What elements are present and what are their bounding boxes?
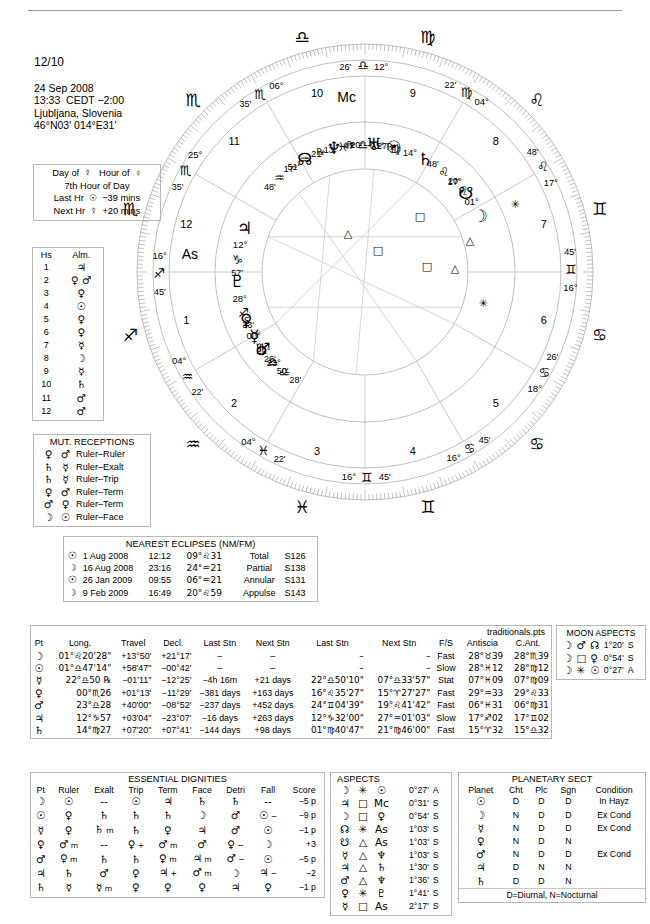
chart-wheel-svg[interactable]: 116°♐45'As204°♒22'304°♓22'416°♊45'516°♋4… xyxy=(120,22,650,532)
chart-wheel[interactable]: 116°♐45'As204°♒22'304°♓22'416°♊45'516°♋4… xyxy=(120,22,650,532)
planetary-sect-table: PlanetChtPlcSgnCondition ☉DDDIn Hayz☽NDD… xyxy=(459,785,645,888)
degree-tick xyxy=(287,477,290,486)
degree-tick xyxy=(325,487,327,497)
cusp-minute-5: 45' xyxy=(479,435,491,445)
degree-tick xyxy=(138,295,144,296)
cusp-degree-5: 16° xyxy=(446,452,461,463)
aspect-from: ☽ xyxy=(336,784,354,797)
point-contra-antiscia: 17°♊02 xyxy=(505,712,551,724)
points-column-header: Last Stn xyxy=(299,638,366,650)
degree-tick xyxy=(572,352,578,354)
almuten-row: 3♀ xyxy=(33,287,103,300)
degree-tick xyxy=(566,176,571,179)
almuten-symbol: ♄ xyxy=(60,378,103,391)
almuten-row: 7☿ xyxy=(33,339,103,352)
points-row: ♂23°♎28+40'00"−08°52'−237 days+452 days2… xyxy=(31,699,551,711)
aspect-chord-6 xyxy=(268,237,454,324)
point-declination: −11°29' xyxy=(153,687,193,699)
degree-tick xyxy=(162,168,167,171)
aspect-marker-7: △ xyxy=(344,227,353,240)
degree-tick xyxy=(580,326,586,327)
eclipse-date: 26 Jan 2009 xyxy=(81,574,147,586)
dignity-score: +3 xyxy=(284,838,324,852)
degree-tick xyxy=(392,46,393,52)
degree-tick xyxy=(505,95,509,100)
point-declination: −00°42' xyxy=(153,662,193,674)
point-next-stn-pos: – xyxy=(366,650,433,662)
degree-tick xyxy=(302,485,304,491)
mutual-reception-row: ☽☉Ruler–Face xyxy=(40,511,127,524)
cusp-minute-7: 45' xyxy=(564,247,576,257)
eclipse-saros: S138 xyxy=(282,562,317,574)
reception-planet-b: ☿ xyxy=(57,461,74,474)
degree-tick xyxy=(542,135,547,139)
degree-tick xyxy=(176,145,181,148)
almuten-symbol: ♂ xyxy=(60,392,103,405)
house-number-9: 9 xyxy=(410,87,416,99)
sect-sign: N xyxy=(554,875,584,888)
reception-planet-b: ♂ xyxy=(57,486,74,499)
degree-tick xyxy=(577,205,583,207)
zodiac-glyph-7: ♊ xyxy=(592,199,607,219)
point-symbol: ♃ xyxy=(31,712,47,724)
point-last-stn-time: −4h 16m xyxy=(193,674,246,686)
degree-tick xyxy=(492,85,495,90)
degree-tick xyxy=(298,484,300,490)
aspect-to: ♆ xyxy=(372,849,391,862)
almuten-symbol: ♀ xyxy=(60,326,103,339)
degree-tick xyxy=(565,172,570,175)
eclipse-row: ☽9 Feb 200916:4920°♌59AppulseS143 xyxy=(64,587,317,599)
mutual-receptions-table: ♀♂Ruler–Ruler♄☿Ruler–Exalt♄☿Ruler–Trip♀♂… xyxy=(40,448,127,524)
essential-dignities-title: ESSENTIAL DIGNITIES xyxy=(31,774,324,785)
point-next-stn-time: – xyxy=(246,662,299,674)
sect-sign: N xyxy=(554,835,584,848)
aspect-sa: S xyxy=(431,797,441,810)
sect-chart: D xyxy=(503,861,530,874)
degree-tick xyxy=(572,190,578,192)
sect-column-header: Cht xyxy=(503,785,530,795)
dignity-face: ♂ xyxy=(185,838,219,852)
dignity-term: ♀ xyxy=(151,881,185,895)
aspect-orb: 1°03' xyxy=(391,823,431,836)
degree-tick xyxy=(190,412,198,418)
aspect-lines xyxy=(268,169,462,374)
dignity-face: ♃ m xyxy=(185,852,219,866)
point-next-stn-time: +98 days xyxy=(246,724,299,736)
aspect-orb: 1°30' xyxy=(391,861,431,874)
points-row: ♃12°♑57+03'04"−23°07'−16 days+263 days12… xyxy=(31,712,551,724)
degree-tick xyxy=(570,347,579,350)
aspect-sa: S xyxy=(431,823,441,836)
point-antiscia: 28°♉39 xyxy=(460,650,506,662)
degree-tick xyxy=(225,447,229,452)
point-contra-antiscia: 07°♍09 xyxy=(505,674,551,686)
planet-minute-neptune: 51' xyxy=(288,162,300,172)
planetary-sect-title: PLANETARY SECT xyxy=(459,774,645,785)
sect-chart: N xyxy=(503,848,530,861)
dignity-face: ♀ xyxy=(185,881,219,895)
degree-tick xyxy=(140,310,150,312)
degree-tick xyxy=(571,355,577,357)
aspect-chord-4 xyxy=(299,193,417,361)
degree-tick xyxy=(559,380,564,383)
degree-tick xyxy=(212,437,216,441)
chart-date: 24 Sep 2008 xyxy=(34,82,94,94)
cusp-sign-5: ♋ xyxy=(464,441,476,456)
dignity-modifier: − xyxy=(268,812,277,821)
degree-tick xyxy=(329,491,330,497)
degree-tick xyxy=(176,396,181,399)
almuten-house: 6 xyxy=(33,326,60,339)
degree-tick xyxy=(549,145,554,148)
degree-tick xyxy=(272,475,274,480)
degree-tick xyxy=(563,373,568,376)
sect-column-header: Plc xyxy=(529,785,553,795)
degree-tick xyxy=(321,48,322,54)
degree-tick xyxy=(140,307,146,308)
degree-tick xyxy=(244,79,247,84)
degree-tick xyxy=(466,69,469,74)
degree-tick xyxy=(530,421,534,425)
sect-row: ♃DNN xyxy=(459,861,645,874)
dignity-row: ☽☉--☉♃♄♄--−5 p xyxy=(31,795,324,808)
point-next-stn-time: +263 days xyxy=(246,712,299,724)
degree-tick xyxy=(142,225,148,226)
dignity-score: −1 p xyxy=(284,823,324,837)
